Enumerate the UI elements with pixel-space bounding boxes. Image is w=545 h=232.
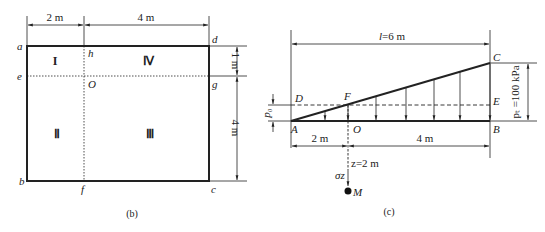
dim-label-4m-vertical: 4 m <box>230 120 242 137</box>
figure-c: l=6 m p₀ pₜ =100 kPa 2 m <box>260 30 537 218</box>
caption-b: (b) <box>126 208 138 220</box>
dim-label-l-text: =6 m <box>382 30 405 42</box>
stress-label: σz <box>335 169 345 181</box>
point-M-dot <box>345 188 352 195</box>
point-c: c <box>211 183 216 195</box>
point-f: f <box>81 183 86 195</box>
dim-label-2m: 2 m <box>47 11 64 23</box>
dim-label-4m: 4 m <box>417 132 434 144</box>
region-I: I <box>53 54 58 68</box>
point-O: O <box>353 123 361 135</box>
region-III: Ⅲ <box>146 127 154 141</box>
point-B: B <box>493 123 500 135</box>
caption-c: (c) <box>383 206 394 218</box>
point-h: h <box>88 47 94 59</box>
point-E: E <box>492 95 500 107</box>
region-II: Ⅱ <box>54 127 60 141</box>
point-D: D <box>294 92 303 104</box>
dim-label-1m: 1 m <box>230 53 242 70</box>
point-a: a <box>17 40 23 52</box>
dim-label-pt: pₜ =100 kPa <box>509 65 521 118</box>
dim-label-l: l=6 m <box>379 30 406 42</box>
dim-label-4m: 4 m <box>138 11 155 23</box>
point-M: M <box>352 186 363 198</box>
point-g: g <box>212 78 218 90</box>
figure-b: 2 m 4 m 1 m 4 m a h d e O g b f c I Ⅳ Ⅱ … <box>17 11 247 220</box>
depth-label: z=2 m <box>351 157 379 169</box>
point-d: d <box>212 33 218 45</box>
dim-label-p0: p₀ <box>260 108 272 119</box>
dim-label-2m: 2 m <box>312 132 329 144</box>
diagram-canvas: 2 m 4 m 1 m 4 m a h d e O g b f c I Ⅳ Ⅱ … <box>0 0 545 232</box>
point-A: A <box>290 123 298 135</box>
point-O: O <box>88 78 96 90</box>
point-e: e <box>17 70 22 82</box>
point-C: C <box>493 51 501 63</box>
point-b: b <box>19 175 25 187</box>
region-IV: Ⅳ <box>143 54 155 68</box>
point-F: F <box>343 90 351 102</box>
